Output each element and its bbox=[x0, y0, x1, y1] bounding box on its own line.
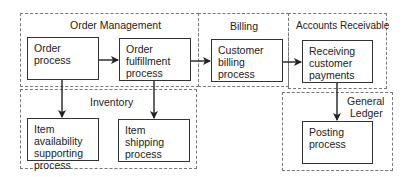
arrows-layer bbox=[0, 0, 406, 177]
